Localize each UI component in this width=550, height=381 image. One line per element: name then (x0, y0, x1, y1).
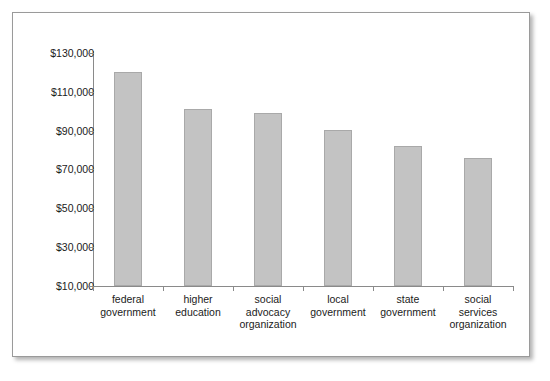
bar-federal-government (114, 72, 142, 286)
bar-series (93, 51, 513, 286)
y-axis-tick-label: $90,000 (22, 126, 94, 137)
y-axis-tick-label: $10,000 (22, 281, 94, 292)
x-axis-category-label: local government (303, 293, 373, 318)
category-line: higher (163, 293, 233, 306)
bar-social-services-organization (464, 158, 492, 286)
category-line: government (303, 306, 373, 319)
y-axis-tick-label: $70,000 (22, 164, 94, 175)
x-axis-tick-mark (93, 286, 94, 291)
y-axis-tick-group: $130,000 (13, 53, 94, 54)
y-axis-tick-group: $30,000 (13, 247, 94, 248)
category-line: local (303, 293, 373, 306)
category-line: education (163, 306, 233, 319)
x-axis-tick-mark (513, 286, 514, 291)
bar-social-advocacy-organization (254, 113, 282, 286)
x-axis-category-label: higher education (163, 293, 233, 318)
x-axis-category-label: social services organization (443, 293, 513, 331)
y-axis-tick-group: $110,000 (13, 92, 94, 93)
y-axis-tick-label: $50,000 (22, 203, 94, 214)
category-line: services (443, 306, 513, 319)
category-line: social (443, 293, 513, 306)
y-axis-tick-group: $10,000 (13, 286, 94, 287)
category-line: organization (443, 318, 513, 331)
y-axis-tick-group: $50,000 (13, 208, 94, 209)
category-line: social (233, 293, 303, 306)
category-line: government (93, 306, 163, 319)
x-axis-tick-mark (443, 286, 444, 291)
x-axis-tick-mark (163, 286, 164, 291)
x-axis-tick-mark (303, 286, 304, 291)
x-axis-category-label: social advocacy organization (233, 293, 303, 331)
x-axis-category-labels: federal government higher education soci… (93, 293, 513, 351)
bar-state-government (394, 146, 422, 286)
x-axis-category-label: federal government (93, 293, 163, 318)
bar-higher-education (184, 109, 212, 286)
bar-local-government (324, 130, 352, 286)
y-axis-tick-group: $90,000 (13, 131, 94, 132)
y-axis-tick-group: $70,000 (13, 169, 94, 170)
y-axis-tick-label: $30,000 (22, 242, 94, 253)
chart-card: $130,000 $110,000 $90,000 $70,000 $50,00… (12, 12, 530, 357)
category-line: advocacy (233, 306, 303, 319)
category-line: federal (93, 293, 163, 306)
category-line: state (373, 293, 443, 306)
category-line: organization (233, 318, 303, 331)
category-line: government (373, 306, 443, 319)
x-axis-tick-mark (373, 286, 374, 291)
y-axis-tick-label: $130,000 (22, 48, 94, 59)
x-axis-tick-mark (233, 286, 234, 291)
y-axis-tick-label: $110,000 (22, 87, 94, 98)
plot-area: $130,000 $110,000 $90,000 $70,000 $50,00… (13, 13, 529, 356)
chart-screenshot: $130,000 $110,000 $90,000 $70,000 $50,00… (0, 0, 550, 381)
x-axis-category-label: state government (373, 293, 443, 318)
